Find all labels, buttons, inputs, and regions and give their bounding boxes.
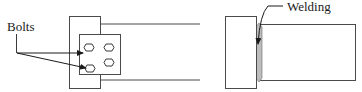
bolt-icon [104, 44, 114, 51]
bolt-icon [85, 65, 95, 72]
welding-label: Welding [287, 0, 331, 14]
bolted-connection-figure: Bolts [7, 17, 200, 89]
bolt-icon [104, 59, 114, 66]
bolts-label: Bolts [7, 19, 34, 34]
right-beam [261, 25, 356, 81]
connection-diagram: Bolts Welding [0, 0, 362, 92]
welded-connection-figure: Welding [226, 0, 356, 89]
right-end-plate [226, 17, 257, 89]
bolt-icon [84, 44, 94, 51]
